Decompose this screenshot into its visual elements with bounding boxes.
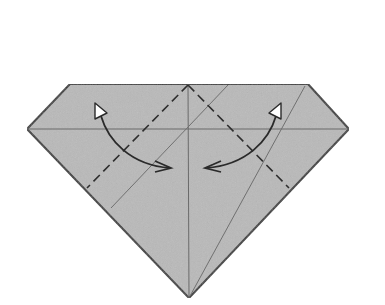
origami-diagram xyxy=(0,0,385,305)
